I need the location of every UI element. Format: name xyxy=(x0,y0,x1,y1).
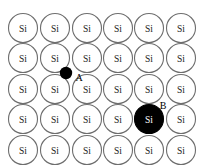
lattice-atom: Si xyxy=(104,136,133,165)
substitutional-atom-label: Si xyxy=(145,115,153,125)
lattice-atom: Si xyxy=(41,136,70,165)
lattice-canvas: SiSiSiSiSiSiSiSiSiSiSiSiSiSiSiSiSiSiSiSi… xyxy=(0,0,202,168)
atom-label: Si xyxy=(177,24,185,34)
atom-label: Si xyxy=(114,85,122,95)
lattice-atom: Si xyxy=(9,105,38,134)
lattice-atom: Si xyxy=(167,44,196,73)
atom-label: Si xyxy=(114,115,122,125)
lattice-atom: Si xyxy=(104,75,133,104)
lattice-atom: Si xyxy=(167,14,196,43)
atom-label: Si xyxy=(114,54,122,64)
atom-label: Si xyxy=(145,24,153,34)
lattice-atom: Si xyxy=(135,136,164,165)
atom-label: Si xyxy=(114,24,122,34)
atom-label: Si xyxy=(83,24,91,34)
silicon-lattice-diagram: SiSiSiSiSiSiSiSiSiSiSiSiSiSiSiSiSiSiSiSi… xyxy=(0,0,202,168)
atom-label: Si xyxy=(51,85,59,95)
lattice-atom: Si xyxy=(41,14,70,43)
lattice-atom: Si xyxy=(135,44,164,73)
interstitial-dot xyxy=(60,67,72,79)
lattice-atom: Si xyxy=(9,75,38,104)
atom-label: Si xyxy=(114,146,122,156)
lattice-atom: Si xyxy=(41,105,70,134)
lattice-atom: Si xyxy=(167,75,196,104)
atom-label: Si xyxy=(145,54,153,64)
atom-label: Si xyxy=(83,115,91,125)
defect-b: SiB xyxy=(135,100,167,134)
atom-label: Si xyxy=(19,115,27,125)
lattice-atom: Si xyxy=(9,136,38,165)
lattice-atom: Si xyxy=(104,14,133,43)
atom-label: Si xyxy=(83,54,91,64)
lattice-atom: Si xyxy=(104,105,133,134)
lattice-atom: Si xyxy=(135,14,164,43)
atom-label: Si xyxy=(83,85,91,95)
lattice-atom: Si xyxy=(73,136,102,165)
atom-label: Si xyxy=(177,54,185,64)
lattice-atom: Si xyxy=(73,14,102,43)
lattice-atom: Si xyxy=(73,44,102,73)
atom-layer: SiSiSiSiSiSiSiSiSiSiSiSiSiSiSiSiSiSiSiSi… xyxy=(9,14,196,165)
atom-label: Si xyxy=(19,85,27,95)
lattice-atom: Si xyxy=(9,14,38,43)
atom-label: Si xyxy=(145,146,153,156)
lattice-atom: Si xyxy=(167,105,196,134)
atom-label: Si xyxy=(19,24,27,34)
atom-label: Si xyxy=(51,54,59,64)
defect-marker-label-a: A xyxy=(75,72,83,83)
lattice-atom: Si xyxy=(73,105,102,134)
atom-label: Si xyxy=(51,24,59,34)
lattice-atom: Si xyxy=(9,44,38,73)
atom-label: Si xyxy=(177,115,185,125)
defect-marker-label-b: B xyxy=(160,100,167,111)
atom-label: Si xyxy=(83,146,91,156)
atom-label: Si xyxy=(145,85,153,95)
lattice-atom: Si xyxy=(104,44,133,73)
atom-label: Si xyxy=(19,54,27,64)
atom-label: Si xyxy=(177,85,185,95)
atom-label: Si xyxy=(177,146,185,156)
atom-label: Si xyxy=(51,146,59,156)
lattice-atom: Si xyxy=(167,136,196,165)
atom-label: Si xyxy=(19,146,27,156)
atom-label: Si xyxy=(51,115,59,125)
